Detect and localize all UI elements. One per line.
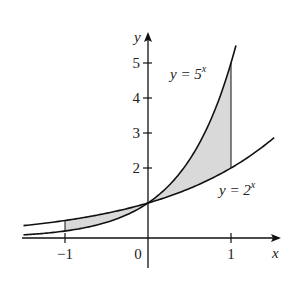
x-tick-label: −1: [57, 246, 73, 262]
exponential-graph: −101 2345 y x y = 5x y = 2x: [0, 0, 301, 290]
y-axis-label: y: [132, 29, 141, 45]
y-tick-label: 4: [133, 90, 141, 106]
y-tick-label: 3: [133, 125, 141, 141]
curve-label-5x-lhs: y = 5: [168, 66, 202, 82]
x-axis-label: x: [271, 245, 279, 261]
curve-label-5x-exp: x: [201, 63, 207, 74]
curve-label-2x-exp: x: [250, 179, 256, 190]
x-tick-label: 0: [134, 246, 142, 262]
curve-label-2x-lhs: y = 2: [217, 182, 251, 198]
y-ticks: 2345: [133, 55, 153, 176]
curve-label-2x: y = 2x: [217, 179, 256, 198]
y-tick-label: 2: [133, 160, 141, 176]
y-tick-label: 5: [133, 55, 141, 71]
x-tick-label: 1: [227, 246, 235, 262]
curve-label-5x: y = 5x: [168, 63, 207, 82]
